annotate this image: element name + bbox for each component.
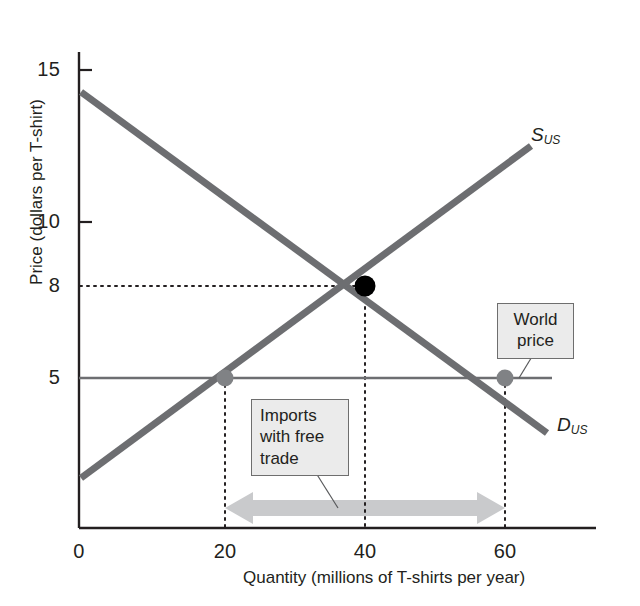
figure-panel: 15 10 8 5 0 20 40 60 Price (dollars per …: [0, 0, 640, 606]
demand-curve: [81, 92, 547, 433]
x-axis-title: Quantity (millions of T-shirts per year): [243, 568, 525, 588]
x-tick-label-40: 40: [344, 540, 386, 563]
y-tick-label-15: 15: [18, 58, 60, 81]
equilibrium-point-dot: [355, 276, 376, 297]
supply-curve-label: SUS: [531, 124, 560, 146]
y-tick-label-5: 5: [18, 366, 60, 389]
x-tick-label-20: 20: [204, 540, 246, 563]
x-tick-label-60: 60: [484, 540, 526, 563]
world-price-callout: World price: [497, 303, 574, 359]
imports-callout: Imports with free trade: [251, 399, 349, 476]
y-axis-title: Price (dollars per T-shirt): [27, 92, 47, 292]
x-tick-label-0: 0: [58, 540, 100, 563]
demand-curve-label-sub: US: [571, 423, 588, 437]
demand-curve-label-main: D: [557, 414, 571, 435]
supply-curve-label-main: S: [531, 124, 544, 145]
demand-curve-label: DUS: [557, 414, 587, 436]
quantity-supplied-dot: [217, 370, 234, 387]
quantity-demanded-dot: [497, 370, 514, 387]
supply-curve-label-sub: US: [544, 133, 561, 147]
